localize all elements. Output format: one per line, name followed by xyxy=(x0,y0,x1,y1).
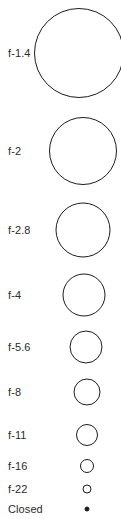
aperture-circle-icon xyxy=(85,507,90,512)
aperture-size-chart: f-1.4f-2f-2.8f-4f-5.6f-8f-11f-16f-22Clos… xyxy=(0,0,121,519)
aperture-label-closed: Closed xyxy=(8,504,43,515)
aperture-circle-icon xyxy=(70,331,103,364)
aperture-label-f-1-4: f-1.4 xyxy=(8,48,31,59)
aperture-label-f-11: f-11 xyxy=(8,430,27,441)
aperture-label-f-16: f-16 xyxy=(8,461,27,472)
aperture-circle-icon xyxy=(34,8,121,98)
aperture-circle-icon xyxy=(49,117,117,185)
aperture-label-f-5-6: f-5.6 xyxy=(8,342,31,353)
aperture-circle-icon xyxy=(80,459,94,473)
aperture-circle-icon xyxy=(56,203,111,258)
aperture-label-f-2-8: f-2.8 xyxy=(8,225,31,236)
aperture-circle-icon xyxy=(74,379,101,406)
aperture-circle-icon xyxy=(76,424,98,446)
aperture-label-f-4: f-4 xyxy=(8,290,21,301)
aperture-label-f-8: f-8 xyxy=(8,387,21,398)
aperture-circle-icon xyxy=(63,274,106,317)
aperture-circle-icon xyxy=(83,485,92,494)
aperture-label-f-2: f-2 xyxy=(8,146,21,157)
aperture-label-f-22: f-22 xyxy=(8,484,27,495)
